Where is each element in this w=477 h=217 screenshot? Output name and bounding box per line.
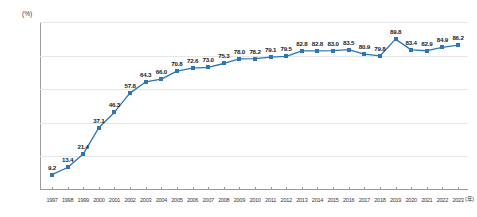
x-axis-tick-label: 2018: [374, 197, 385, 203]
x-axis-tick-label: 2002: [124, 197, 135, 203]
data-point-label: 9.2: [48, 164, 56, 171]
x-axis-tick-label: 2003: [140, 197, 151, 203]
x-axis-tick-label: 2011: [265, 197, 276, 203]
data-point-marker: [300, 49, 304, 53]
data-point-marker: [112, 110, 116, 114]
x-axis-tick: [208, 187, 209, 190]
data-point-label: 82.8: [296, 40, 307, 47]
x-axis-tick: [396, 187, 397, 190]
data-point-marker: [237, 57, 241, 61]
x-axis-tick-label: 2013: [296, 197, 307, 203]
x-axis-tick-label: 2012: [281, 197, 292, 203]
data-point-marker: [206, 65, 210, 69]
x-axis-tick: [442, 187, 443, 190]
data-point-marker: [175, 69, 179, 73]
x-axis-tick-label: 2005: [171, 197, 182, 203]
data-point-label: 82.9: [421, 40, 432, 47]
x-axis-tick-label: 2000: [93, 197, 104, 203]
x-axis-tick-label: 2009: [234, 197, 245, 203]
data-point-label: 57.8: [124, 82, 135, 89]
data-point-label: 46.3: [109, 101, 120, 108]
x-axis-tick-label: 2010: [249, 197, 260, 203]
data-point-label: 78.2: [249, 48, 260, 55]
data-point-marker: [425, 49, 429, 53]
data-point-label: 86.2: [452, 34, 463, 41]
data-point-marker: [66, 165, 70, 169]
x-axis-tick: [130, 187, 131, 190]
x-axis-tick-label: 2020: [406, 197, 417, 203]
data-point-label: 79.1: [265, 46, 276, 53]
data-point-marker: [362, 52, 366, 56]
data-point-label: 64.3: [140, 71, 151, 78]
x-axis-tick: [114, 187, 115, 190]
data-point-label: 89.8: [390, 28, 401, 35]
data-point-label: 73.0: [203, 56, 214, 63]
data-point-label: 70.8: [171, 60, 182, 67]
data-point-marker: [456, 43, 460, 47]
line-chart: (%) 020406080100 9.213.421.437.146.357.8…: [0, 0, 477, 217]
data-point-label: 83.4: [406, 39, 417, 46]
x-axis-tick: [286, 187, 287, 190]
data-point-marker: [284, 54, 288, 58]
x-axis-tick: [302, 187, 303, 190]
data-point-label: 66.0: [156, 68, 167, 75]
data-point-label: 13.4: [62, 156, 73, 163]
x-axis-tick-label: 2019: [390, 197, 401, 203]
data-point-marker: [253, 57, 257, 61]
x-axis-tick: [255, 187, 256, 190]
data-point-marker: [315, 49, 319, 53]
x-axis-tick: [458, 187, 459, 190]
data-point-label: 21.4: [78, 143, 89, 150]
data-point-marker: [191, 66, 195, 70]
x-axis-tick: [161, 187, 162, 190]
x-axis-tick-label: 1999: [78, 197, 89, 203]
x-axis-tick: [380, 187, 381, 190]
data-point-marker: [97, 126, 101, 130]
data-point-label: 72.6: [187, 57, 198, 64]
x-axis-tick: [333, 187, 334, 190]
data-point-marker: [144, 80, 148, 84]
x-axis-tick: [146, 187, 147, 190]
data-point-marker: [81, 152, 85, 156]
x-axis-tick-label: 2015: [327, 197, 338, 203]
data-point-label: 83.0: [327, 40, 338, 47]
x-axis-tick: [68, 187, 69, 190]
x-axis-tick-label: 2016: [343, 197, 354, 203]
x-axis-tick: [177, 187, 178, 190]
x-axis-tick: [193, 187, 194, 190]
data-point-marker: [128, 91, 132, 95]
y-axis-unit-label: (%): [22, 10, 32, 17]
x-axis-tick: [411, 187, 412, 190]
plot-area: 020406080100 9.213.421.437.146.357.864.3…: [40, 22, 468, 190]
data-point-label: 75.3: [218, 52, 229, 59]
data-point-marker: [50, 173, 54, 177]
data-point-label: 82.8: [312, 40, 323, 47]
data-point-label: 78.0: [234, 48, 245, 55]
x-axis-tick-label: 2006: [187, 197, 198, 203]
data-point-label: 79.8: [374, 45, 385, 52]
x-axis-tick-label: 2004: [156, 197, 167, 203]
data-point-label: 83.5: [343, 39, 354, 46]
x-axis-tick-label: 1998: [62, 197, 73, 203]
data-point-marker: [222, 61, 226, 65]
x-axis-tick-label: 2021: [421, 197, 432, 203]
data-point-marker: [394, 37, 398, 41]
data-point-marker: [378, 54, 382, 58]
x-axis-tick-label: 2008: [218, 197, 229, 203]
data-point-marker: [331, 49, 335, 53]
data-point-label: 37.1: [93, 117, 104, 124]
x-axis-tick: [364, 187, 365, 190]
x-axis-tick-label: 2017: [359, 197, 370, 203]
data-point-label: 80.9: [359, 43, 370, 50]
x-axis-tick: [317, 187, 318, 190]
x-axis-tick: [99, 187, 100, 190]
x-axis-tick-label: 1997: [46, 197, 57, 203]
data-point-marker: [347, 48, 351, 52]
x-axis-unit-label: (年): [465, 195, 474, 203]
x-axis-tick: [427, 187, 428, 190]
data-point-marker: [440, 45, 444, 49]
x-axis-tick-label: 2014: [312, 197, 323, 203]
data-point-label: 84.9: [437, 36, 448, 43]
x-axis-tick: [83, 187, 84, 190]
x-axis-tick: [349, 187, 350, 190]
